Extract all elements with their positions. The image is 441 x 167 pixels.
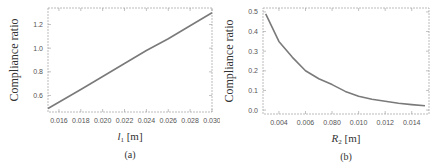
x-tick-label: 0.010: [350, 119, 368, 126]
panel-label: (b): [340, 151, 352, 163]
x-tick-label: 0.016: [50, 117, 68, 124]
x-tick-label: 0.080: [323, 119, 341, 126]
y-tick-label: 0.3: [248, 48, 258, 55]
chart-panel-b: 0.0040.0060.0800.0100.0120.0140.00.10.20…: [220, 0, 441, 167]
plot-frame: [263, 8, 429, 114]
y-tick-label: 1.2: [33, 21, 43, 28]
chart-panel-a: 0.0160.0180.0200.0220.0240.0260.0280.030…: [0, 0, 220, 167]
data-line: [266, 14, 425, 106]
y-tick-label: 0.5: [248, 8, 258, 15]
x-tick-label: 0.026: [160, 117, 178, 124]
x-tick-label: 0.022: [116, 117, 134, 124]
x-axis-label: l1 [m]: [117, 130, 142, 144]
x-tick-label: 0.006: [297, 119, 315, 126]
y-axis-label: Compliance ratio: [7, 19, 21, 102]
x-tick-label: 0.030: [203, 117, 220, 124]
y-tick-label: 0.2: [248, 67, 258, 74]
x-tick-label: 0.004: [270, 119, 288, 126]
y-tick-label: 1.0: [33, 45, 43, 52]
line-chart-a: 0.0160.0180.0200.0220.0240.0260.0280.030…: [0, 0, 220, 167]
x-axis-label: R2 [m]: [331, 132, 361, 146]
line-chart-b: 0.0040.0060.0800.0100.0120.0140.00.10.20…: [220, 0, 441, 167]
y-tick-label: 0.6: [33, 92, 43, 99]
x-tick-label: 0.020: [94, 117, 112, 124]
x-tick-label: 0.024: [138, 117, 156, 124]
x-tick-label: 0.012: [376, 119, 394, 126]
y-axis-label: Compliance ratio: [222, 20, 236, 103]
y-tick-label: 0.1: [248, 87, 258, 94]
data-line: [48, 13, 212, 109]
y-tick-label: 0.0: [248, 107, 258, 114]
x-tick-label: 0.014: [403, 119, 421, 126]
y-tick-label: 0.8: [33, 68, 43, 75]
panel-label: (a): [124, 149, 135, 161]
x-tick-label: 0.028: [181, 117, 199, 124]
x-tick-label: 0.018: [72, 117, 90, 124]
y-tick-label: 0.4: [248, 28, 258, 35]
